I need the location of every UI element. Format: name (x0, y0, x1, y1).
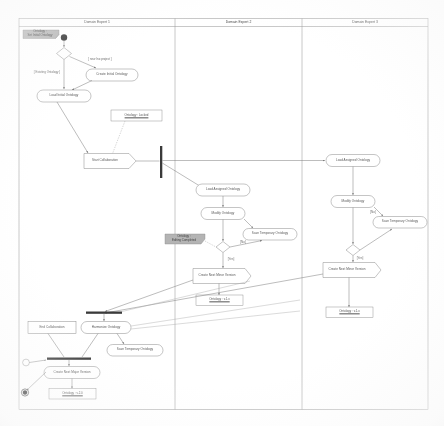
decision-editing-done-2 (216, 242, 230, 253)
action-harmonize-ontology (81, 322, 131, 334)
join-bar-collaboration (86, 312, 122, 314)
diagram-vector-layer (0, 0, 444, 426)
action-modify-ontology-2 (201, 208, 245, 220)
action-load-initial-ontology (37, 90, 91, 102)
merge-node-small (23, 359, 30, 366)
decision-project (57, 48, 72, 60)
note-ontology-locked (111, 110, 162, 121)
action-create-next-major-version (44, 367, 100, 379)
fork-bar-main (160, 146, 162, 178)
action-load-assigned-ontology-3 (326, 155, 380, 167)
signal-start-collaboration (84, 154, 136, 169)
gray-note-start (23, 30, 59, 39)
action-save-temporary-ontology-1 (107, 345, 163, 357)
activity-diagram-canvas: Domain Expert 1 Domain Expert 2 Domain E… (0, 0, 444, 426)
action-save-temporary-ontology-2 (243, 229, 297, 241)
signal-create-minor-version-2 (193, 269, 251, 284)
note-ontology-minor-2 (196, 295, 243, 306)
signal-create-minor-version-3 (323, 263, 381, 278)
decision-editing-done-3 (346, 245, 360, 256)
action-load-assigned-ontology-2 (196, 184, 250, 196)
initial-node (61, 34, 67, 40)
note-ontology-minor-3 (326, 307, 373, 318)
action-create-initial-ontology (86, 69, 138, 81)
signal-end-collaboration (28, 322, 76, 334)
action-save-temporary-ontology-3 (373, 217, 427, 229)
action-modify-ontology-3 (331, 196, 375, 208)
join-bar-final (47, 358, 91, 360)
gray-note-editing-completed (165, 234, 205, 244)
note-ontology-major (49, 389, 96, 400)
